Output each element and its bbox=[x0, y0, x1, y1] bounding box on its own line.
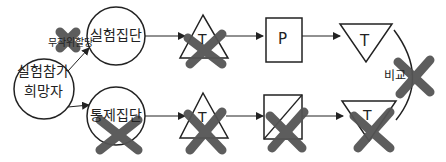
compare-label: 비교 bbox=[384, 70, 406, 82]
treatment-symbol: P bbox=[278, 32, 287, 47]
participants-label-1: 실험참가 bbox=[17, 64, 69, 78]
posttest-symbol-ctrl: T bbox=[363, 108, 372, 122]
pretest-symbol-exp: T bbox=[198, 32, 207, 46]
pretest-symbol-ctrl: T bbox=[198, 110, 207, 124]
control-group-label: 통제집단 bbox=[90, 108, 142, 122]
participants-label-2: 희망자 bbox=[24, 84, 63, 98]
posttest-symbol-exp: T bbox=[360, 34, 369, 49]
assign-arrow-bottom bbox=[68, 105, 89, 107]
experimental-design-diagram bbox=[0, 0, 446, 162]
assignment-label: 무작위할당 bbox=[48, 38, 93, 48]
experimental-group-label: 실험집단 bbox=[90, 28, 142, 42]
